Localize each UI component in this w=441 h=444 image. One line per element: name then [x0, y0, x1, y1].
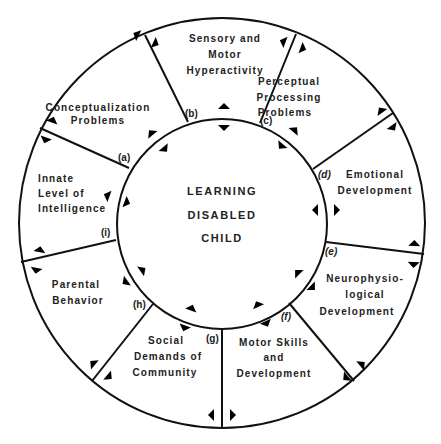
segment-b-tag: (b): [185, 108, 198, 119]
segment-i-line-3: Intelligence: [38, 203, 106, 214]
segment-e-line-2: logical: [345, 289, 384, 300]
segment-h-line-2: Behavior: [52, 295, 104, 306]
segment-e-line-1: Neurophysio-: [326, 273, 404, 284]
double-arrow-icon: [218, 103, 230, 131]
segment-i: Innate Level of Intelligence (i): [38, 173, 110, 238]
segment-e: Neurophysio- logical Development (e): [320, 246, 404, 317]
segment-c-line-1: Perceptual: [258, 76, 320, 87]
segment-b-line-1: Sensory and: [189, 33, 261, 44]
segment-d-line-1: Emotional: [346, 169, 404, 180]
segment-b-line-2: Motor: [208, 49, 241, 60]
center-line-1: LEARNING: [187, 185, 257, 197]
segment-e-tag: (e): [325, 246, 338, 257]
segment-a-line-1: Conceptualization: [46, 102, 151, 113]
double-arrow-icon: [119, 263, 149, 289]
double-arrow-icon: [102, 189, 132, 210]
segment-g: Social Demands of Community (g): [133, 333, 219, 378]
segment-f-tag: (f): [281, 311, 292, 322]
segment-g-tag: (g): [206, 333, 219, 344]
segment-g-line-1: Social: [148, 335, 184, 346]
center-label: LEARNING DISABLED CHILD: [187, 185, 257, 244]
segment-f-line-3: Development: [237, 368, 312, 379]
segment-b-line-3: Hyperactivity: [186, 65, 263, 76]
double-arrow-icon: [178, 303, 199, 333]
center-line-3: CHILD: [201, 232, 243, 244]
segment-g-line-3: Community: [133, 367, 198, 378]
segment-d: Emotional Development (d): [318, 169, 412, 196]
segment-c-tag: (c): [260, 115, 272, 126]
segment-i-line-1: Innate: [38, 173, 74, 184]
segment-f-line-2: and: [263, 352, 284, 363]
spoke-e: [326, 242, 424, 254]
segment-c: Perceptual Processing Problems (c): [257, 76, 322, 126]
segment-a-tag: (a): [118, 152, 130, 163]
spoke-d: [313, 113, 393, 169]
inner-circle: [117, 119, 327, 329]
double-arrow-icon: [274, 123, 301, 152]
segment-c-line-2: Processing: [257, 92, 322, 103]
segment-h-line-1: Parental: [52, 279, 100, 290]
learning-disabled-child-diagram: LEARNING DISABLED CHILD Conceptualizatio…: [0, 0, 441, 444]
segment-a-line-2: Problems: [71, 115, 125, 126]
segment-f-line-1: Motor Skills: [239, 337, 309, 348]
segment-d-line-2: Development: [338, 185, 413, 196]
segment-i-line-2: Level of: [38, 188, 85, 199]
outer-arrows: [30, 28, 421, 421]
segment-i-tag: (i): [101, 227, 110, 238]
center-line-2: DISABLED: [187, 209, 256, 221]
spoke-a: [40, 128, 129, 168]
segment-h-tag: (h): [133, 299, 146, 310]
segment-g-line-2: Demands of: [134, 351, 202, 362]
segment-d-tag: (d): [318, 169, 331, 180]
segment-e-line-3: Development: [320, 306, 395, 317]
spoke-b: [145, 35, 188, 122]
segment-h: Parental Behavior (h): [52, 279, 146, 310]
double-arrow-icon: [278, 35, 308, 56]
segment-f: Motor Skills and Development (f): [237, 311, 312, 379]
